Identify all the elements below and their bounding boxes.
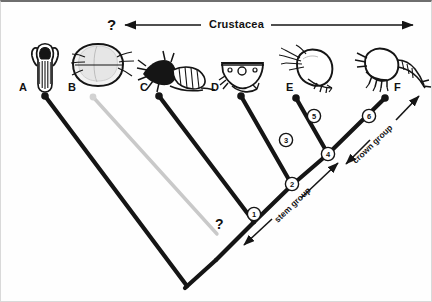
crown-group-arrow-up	[396, 96, 419, 120]
branch-b-uncertainty-question-mark: ?	[215, 217, 224, 231]
crustacea-label: Crustacea	[209, 19, 264, 30]
taxon-label-e: E	[286, 82, 293, 93]
node-label-6: 6	[367, 113, 371, 121]
tip-dot-c	[155, 92, 163, 100]
branch-b-uncertain	[93, 97, 217, 234]
taxon-label-d: D	[211, 82, 219, 93]
tip-dot-b	[90, 94, 97, 101]
node-label-1: 1	[252, 211, 256, 219]
tip-dot-e	[292, 94, 300, 102]
cladogram-figure: ? Crustacea A B C D E F 1 2 3 4 5 6 ? st…	[0, 0, 432, 302]
branch-node3-to-tip-e	[296, 98, 328, 154]
node-label-2: 2	[290, 181, 294, 189]
stem-group-arrow-down	[244, 219, 272, 245]
tip-dot-f	[381, 94, 389, 102]
node-label-4: 4	[326, 151, 330, 159]
top-uncertainty-question-mark: ?	[107, 17, 116, 32]
taxon-label-a: A	[19, 82, 27, 93]
taxon-label-c: C	[140, 82, 148, 93]
taxon-label-b: B	[68, 82, 76, 93]
root-branch	[185, 260, 216, 288]
node-label-3: 3	[284, 137, 288, 145]
tip-dot-d	[237, 92, 245, 100]
branch-c	[159, 96, 254, 222]
taxon-label-f: F	[394, 82, 401, 93]
node-label-5: 5	[312, 113, 316, 121]
tip-dot-a	[41, 92, 49, 100]
